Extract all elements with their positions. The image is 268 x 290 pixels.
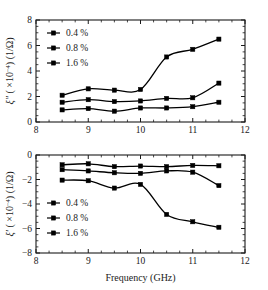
data-point-marker [165,212,169,216]
legend-square-marker [51,61,55,65]
legend-label: 1.6 % [66,228,88,238]
data-point-marker [165,96,169,100]
data-point-marker [191,96,195,100]
data-point-marker [138,182,142,186]
data-point-marker [60,108,64,112]
y-tick-label: −6 [22,224,32,234]
legend-label: 0.8 % [66,43,88,53]
data-point-marker [165,165,169,169]
data-point-marker [86,179,90,183]
bottom-plot-svg: 89101112−8−6−4−200.4 %0.8 %1.6 %ξ′ ( ×10… [0,140,268,290]
data-point-marker [138,99,142,103]
data-point-marker [60,100,64,104]
x-tick-label: 9 [86,125,91,135]
chart-panel-top: 89101112024680.4 %0.8 %1.6 %ξ″ ( ×10−4) … [0,0,268,145]
data-point-marker [217,225,221,229]
chart-panel-bottom: 89101112−8−6−4−200.4 %0.8 %1.6 %ξ′ ( ×10… [0,140,268,290]
svg-text:ξ′ ( ×10−4) (1/Ω): ξ′ ( ×10−4) (1/Ω) [4,171,17,236]
data-point-marker [138,164,142,168]
data-point-marker [112,88,116,92]
y-tick-label: 6 [27,41,32,51]
x-tick-label: 8 [34,256,39,266]
data-point-marker [60,163,64,167]
data-point-marker [191,105,195,109]
y-tick-label: 0 [27,117,32,127]
data-point-marker [217,81,221,85]
legend-label: 0.8 % [66,213,88,223]
legend-label: 0.4 % [66,198,88,208]
x-tick-label: 11 [188,256,197,266]
data-point-marker [112,100,116,104]
data-point-marker [60,168,64,172]
data-point-marker [191,163,195,167]
data-point-marker [86,107,90,111]
legend-square-marker [51,201,55,205]
data-point-marker [138,171,142,175]
data-point-marker [138,106,142,110]
legend-square-marker [51,216,55,220]
data-point-marker [217,100,221,104]
x-tick-label: 12 [240,125,250,135]
data-point-marker [217,37,221,41]
data-point-marker [217,184,221,188]
y-tick-label: 8 [27,15,32,25]
y-axis-title: ξ″ ( ×10−4) (1/Ω) [4,37,17,104]
y-tick-label: −4 [22,199,32,209]
y-tick-label: 4 [27,66,32,76]
data-point-marker [112,186,116,190]
y-tick-label: 2 [27,92,32,102]
y-tick-label: −8 [22,248,32,258]
x-tick-label: 10 [136,256,146,266]
svg-text:ξ″ ( ×10−4) (1/Ω): ξ″ ( ×10−4) (1/Ω) [4,37,17,104]
data-point-marker [191,220,195,224]
legend-square-marker [51,231,55,235]
legend-label: 0.4 % [66,28,88,38]
data-point-marker [112,165,116,169]
legend-square-marker [51,31,55,35]
y-tick-label: 0 [27,150,32,160]
legend-label: 1.6 % [66,58,88,68]
data-point-marker [191,170,195,174]
x-tick-label: 12 [240,256,250,266]
data-point-marker [138,87,142,91]
x-tick-label: 10 [136,125,146,135]
data-point-marker [165,169,169,173]
data-point-marker [60,93,64,97]
data-point-marker [86,162,90,166]
data-point-marker [165,55,169,59]
legend-square-marker [51,46,55,50]
x-axis-title: Frequency (GHz) [105,272,175,284]
x-tick-label: 11 [188,125,197,135]
y-axis-title: ξ′ ( ×10−4) (1/Ω) [4,171,17,236]
data-point-marker [86,98,90,102]
x-tick-label: 8 [34,125,39,135]
top-plot-svg: 89101112024680.4 %0.8 %1.6 %ξ″ ( ×10−4) … [0,0,268,145]
x-tick-label: 9 [86,256,91,266]
data-point-marker [191,47,195,51]
figure-container: 89101112024680.4 %0.8 %1.6 %ξ″ ( ×10−4) … [0,0,268,290]
data-point-marker [165,106,169,110]
data-point-marker [217,164,221,168]
data-point-marker [86,169,90,173]
data-point-marker [112,171,116,175]
data-point-marker [86,87,90,91]
y-tick-label: −2 [22,175,32,185]
data-point-marker [112,109,116,113]
data-point-marker [60,178,64,182]
